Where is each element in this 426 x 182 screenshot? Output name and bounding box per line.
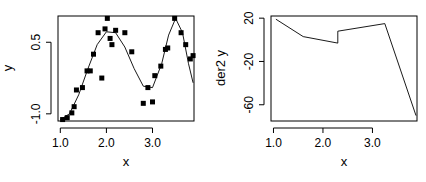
x-tick-label: 1.0 bbox=[52, 136, 69, 150]
data-point bbox=[122, 30, 127, 35]
y-tick-label: -60 bbox=[242, 96, 256, 114]
data-point bbox=[191, 53, 196, 58]
data-point bbox=[74, 87, 79, 92]
right-plot-frame bbox=[271, 16, 417, 121]
x-tick-label: 2.0 bbox=[98, 136, 115, 150]
data-point bbox=[103, 26, 108, 31]
x-tick-label: 2.0 bbox=[315, 136, 332, 150]
data-point bbox=[108, 36, 113, 41]
right-y-label: der2 y bbox=[213, 49, 228, 86]
left-y-axis: -1.00.5 bbox=[29, 34, 51, 125]
data-point bbox=[88, 68, 93, 73]
scatter-panel: 1.02.03.0 -1.00.5 x y bbox=[0, 16, 196, 169]
left-x-axis: 1.02.03.0 bbox=[52, 128, 161, 150]
y-tick-label: 20 bbox=[242, 11, 256, 25]
data-point bbox=[129, 49, 134, 54]
y-tick-label: -20 bbox=[242, 52, 256, 70]
right-y-axis: 20-20-60 bbox=[242, 11, 264, 113]
left-y-label: y bbox=[0, 64, 15, 71]
data-point bbox=[141, 101, 146, 106]
right-x-axis: 1.02.03.0 bbox=[265, 128, 381, 150]
data-point bbox=[113, 28, 118, 33]
y-tick-label: 0.5 bbox=[29, 34, 43, 51]
x-tick-label: 3.0 bbox=[144, 136, 161, 150]
data-point bbox=[105, 16, 110, 21]
x-tick-label: 3.0 bbox=[364, 136, 381, 150]
second-derivative-panel: 1.02.03.0 20-20-60 x der2 y bbox=[213, 11, 417, 169]
data-point bbox=[183, 42, 188, 47]
left-x-label: x bbox=[123, 154, 130, 169]
data-point bbox=[150, 99, 155, 104]
x-tick-label: 1.0 bbox=[265, 136, 282, 150]
data-point bbox=[109, 42, 114, 47]
data-point bbox=[99, 76, 104, 81]
right-x-label: x bbox=[341, 154, 348, 169]
der2-line bbox=[276, 19, 416, 115]
figure: 1.02.03.0 -1.00.5 x y 1.02.03.0 20-20-60… bbox=[0, 0, 426, 182]
data-point bbox=[96, 30, 101, 35]
y-tick-label: -1.0 bbox=[29, 103, 43, 124]
scatter-points bbox=[60, 16, 195, 122]
